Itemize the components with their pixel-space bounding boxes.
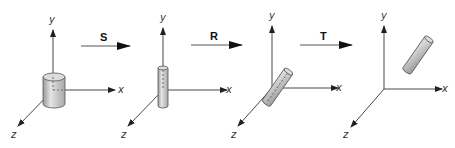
cylinder-scaled — [158, 66, 168, 108]
z-axis-label: z — [10, 129, 17, 140]
y-axis-label: y — [48, 14, 56, 25]
cylinder-original — [43, 73, 65, 108]
z-axis — [351, 89, 384, 127]
panel-translated: y x z — [342, 10, 448, 140]
z-axis-label: z — [230, 129, 237, 140]
x-axis-label: x — [441, 83, 448, 94]
x-axis-label: x — [117, 84, 124, 95]
cylinder-translated — [402, 35, 434, 75]
transform-arrow-translate: T — [300, 30, 352, 45]
cylinder-rotated — [261, 67, 293, 107]
x-axis-label: x — [335, 82, 342, 93]
y-axis-label: y — [268, 10, 276, 21]
y-axis-label: y — [159, 12, 167, 23]
transformation-diagram: y x z S y x z R y x — [0, 0, 455, 148]
y-axis-label: y — [380, 10, 388, 21]
transform-label-s: S — [100, 31, 107, 43]
transform-arrow-rotate: R — [191, 30, 242, 45]
z-axis-label: z — [120, 129, 127, 140]
transform-arrow-scale: S — [81, 31, 130, 46]
transform-label-t: T — [320, 30, 327, 42]
x-axis-label: x — [225, 84, 232, 95]
transform-label-r: R — [210, 30, 218, 42]
z-axis-label: z — [342, 129, 349, 140]
